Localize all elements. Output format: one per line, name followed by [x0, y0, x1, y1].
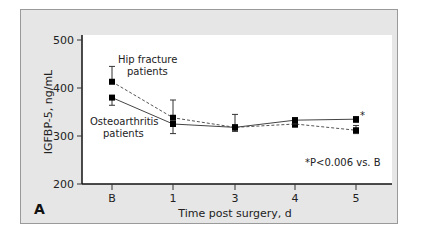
y-tick-label: 200 [53, 178, 74, 191]
osteoarthritis-label-line1: Osteoarthritis [90, 116, 159, 127]
y-axis-title: IGFBP-5, ng/mL [42, 69, 55, 154]
panel-letter: A [34, 201, 45, 217]
osteoarthritis-label-line2: patients [103, 128, 144, 139]
x-tick-label: 3 [232, 192, 239, 205]
square-marker [232, 124, 238, 130]
line-chart: 200300400500B1345 Hip fracture patients … [0, 0, 424, 243]
x-tick-label: 5 [353, 192, 360, 205]
square-marker [170, 115, 176, 121]
x-axis-title: Time post surgery, d [177, 207, 291, 220]
square-marker [170, 121, 176, 127]
x-tick-label: B [108, 192, 116, 205]
square-marker [109, 79, 115, 85]
footnote-significance: *P<0.006 vs. B [305, 157, 381, 168]
y-tick-label: 500 [53, 34, 74, 47]
y-tick-label: 300 [53, 130, 74, 143]
x-tick-label: 4 [292, 192, 299, 205]
square-marker [292, 117, 298, 123]
square-marker [353, 116, 359, 122]
y-tick-label: 400 [53, 82, 74, 95]
hip-fracture-label-line2: patients [127, 66, 168, 77]
hip-fracture-label-line1: Hip fracture [118, 54, 177, 65]
square-marker [353, 127, 359, 133]
x-tick-label: 1 [170, 192, 177, 205]
square-marker [109, 95, 115, 101]
significance-asterisk: * [360, 110, 365, 121]
